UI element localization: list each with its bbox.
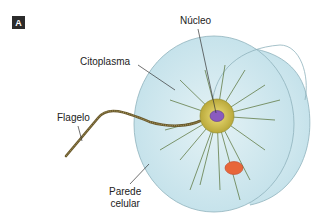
label-cell-wall-line1: Parede xyxy=(109,186,141,198)
label-nucleus: Núcleo xyxy=(180,15,211,27)
red-body xyxy=(225,162,243,175)
label-cytoplasm: Citoplasma xyxy=(80,56,130,68)
label-flagellum: Flagelo xyxy=(57,112,90,124)
label-cell-wall-line2: celular xyxy=(109,198,141,210)
cell-illustration xyxy=(0,0,332,221)
nucleus-core xyxy=(210,111,224,122)
label-cell-wall: Parede celular xyxy=(109,186,141,210)
panel-label-badge: A xyxy=(12,16,25,29)
